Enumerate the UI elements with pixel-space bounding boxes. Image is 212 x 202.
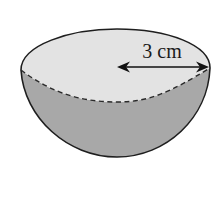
- radius-label: 3 cm: [142, 40, 182, 62]
- hemisphere-diagram: 3 cm: [0, 0, 212, 202]
